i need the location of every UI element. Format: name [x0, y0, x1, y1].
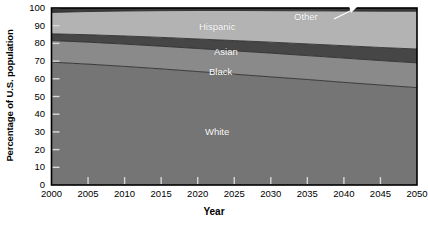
x-tick-label: 2010	[105, 189, 145, 199]
x-tick-label: 2005	[68, 189, 108, 199]
x-tick-label: 2020	[178, 189, 218, 199]
chart-figure: Percentage of U.S. population Year 01020…	[0, 0, 428, 233]
y-axis-title-text: Percentage of U.S. population	[4, 29, 15, 161]
y-tick-label: 90	[19, 21, 45, 31]
x-tick-label: 2040	[324, 189, 364, 199]
y-tick-label: 20	[19, 145, 45, 155]
y-tick-label: 40	[19, 109, 45, 119]
y-tick-label: 100	[19, 3, 45, 13]
x-tick-label: 2030	[251, 189, 291, 199]
y-tick-label: 80	[19, 38, 45, 48]
x-tick-label: 2035	[287, 189, 327, 199]
x-tick-label: 2045	[360, 189, 400, 199]
x-axis-title: Year	[0, 206, 428, 217]
y-tick-label: 50	[19, 92, 45, 102]
stacked-area-bands	[52, 8, 418, 185]
band-label-other: Other	[294, 11, 318, 22]
y-tick-label: 30	[19, 127, 45, 137]
band-label-asian: Asian	[214, 46, 238, 57]
band-label-hispanic: Hispanic	[199, 21, 235, 32]
x-tick-label: 2025	[214, 189, 254, 199]
y-axis-title: Percentage of U.S. population	[0, 0, 18, 190]
band-label-black: Black	[209, 66, 232, 77]
x-tick-label: 2015	[141, 189, 181, 199]
x-tick-label: 2000	[32, 189, 72, 199]
band-label-white: White	[205, 126, 229, 137]
y-tick-label: 60	[19, 74, 45, 84]
y-tick-label: 70	[19, 56, 45, 66]
x-tick-label: 2050	[397, 189, 428, 199]
y-tick-label: 10	[19, 162, 45, 172]
